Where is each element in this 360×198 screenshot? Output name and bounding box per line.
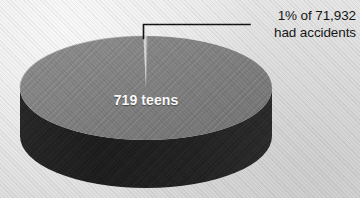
- callout-line-2: had accidents: [274, 24, 356, 41]
- slice-inside-label: 719 teens: [0, 92, 292, 108]
- pie-chart-figure: 1% of 71,932 had accidents 719 teens: [0, 0, 360, 198]
- callout-label: 1% of 71,932 had accidents: [274, 7, 356, 41]
- callout-line-1: 1% of 71,932: [274, 7, 356, 24]
